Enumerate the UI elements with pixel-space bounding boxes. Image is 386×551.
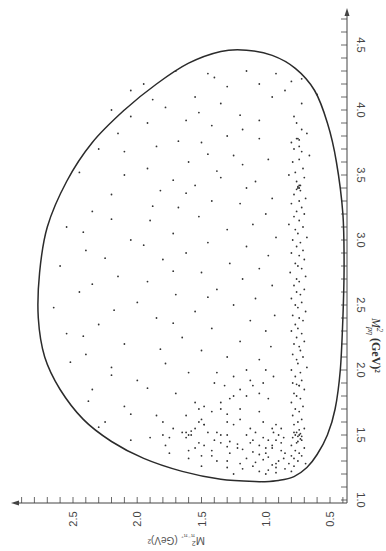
event-point (66, 226, 68, 228)
event-point (156, 317, 158, 319)
event-point (201, 455, 203, 457)
event-point (172, 233, 174, 235)
event-point (292, 161, 294, 163)
event-point (143, 244, 145, 246)
event-point (275, 463, 277, 465)
event-point (172, 428, 174, 430)
event-point (303, 259, 305, 261)
event-point (291, 142, 293, 144)
event-point (242, 448, 244, 450)
event-point (156, 146, 158, 148)
event-point (226, 421, 228, 423)
event-point (201, 142, 203, 144)
event-point (111, 367, 113, 369)
event-point (124, 343, 126, 345)
pη-axis-title-unit: (GeV)² (369, 338, 383, 373)
event-point (165, 363, 167, 365)
event-point (162, 259, 164, 261)
event-point (297, 233, 299, 235)
event-point (267, 469, 269, 471)
event-point (297, 435, 299, 437)
event-point (291, 369, 293, 371)
event-point (91, 211, 93, 213)
event-point (301, 268, 303, 270)
event-point (303, 341, 305, 343)
event-point (275, 439, 277, 441)
event-point (273, 432, 275, 434)
event-point (298, 281, 300, 283)
event-point (258, 471, 260, 473)
event-point (258, 138, 260, 140)
event-point (301, 103, 303, 105)
event-point (291, 298, 293, 300)
event-point (152, 99, 154, 101)
pη-tick-label: 1.5 (355, 427, 367, 442)
event-point (297, 363, 299, 365)
event-point (301, 78, 303, 80)
event-point (185, 415, 187, 417)
event-point (293, 116, 295, 118)
event-point (296, 138, 298, 140)
event-point (188, 434, 190, 436)
event-point (185, 252, 187, 254)
event-point (98, 148, 100, 150)
event-point (246, 70, 248, 72)
event-point (143, 83, 145, 85)
event-point (293, 216, 295, 218)
event-point (301, 129, 303, 131)
event-point (255, 461, 257, 463)
event-point (242, 164, 244, 166)
event-point (229, 441, 231, 443)
event-point (265, 369, 267, 371)
event-point (220, 434, 222, 436)
ππ-axis-title-sup: 2 (192, 540, 196, 547)
event-point (53, 307, 55, 309)
event-point (226, 434, 228, 436)
event-point (293, 458, 295, 460)
event-point (188, 372, 190, 374)
event-point (233, 424, 235, 426)
event-point (98, 324, 100, 326)
event-point (149, 220, 151, 222)
event-point (130, 413, 132, 415)
event-point (292, 354, 294, 356)
event-point (273, 376, 275, 378)
event-point (220, 103, 222, 105)
event-point (298, 200, 300, 202)
event-point (233, 155, 235, 157)
event-point (136, 380, 138, 382)
event-point (216, 289, 218, 291)
event-point (258, 454, 260, 456)
event-point (298, 346, 300, 348)
event-point (296, 122, 298, 124)
event-point (111, 194, 113, 196)
event-point (267, 398, 269, 400)
event-point (226, 446, 228, 448)
ππ-tick-label: 0.5 (324, 511, 336, 526)
event-point (79, 172, 81, 174)
pη-axis-arrow-icon (345, 8, 350, 16)
event-point (258, 268, 260, 270)
event-point (298, 139, 300, 141)
event-point (294, 304, 296, 306)
event-point (297, 328, 299, 330)
event-point (292, 437, 294, 439)
event-point (239, 114, 241, 116)
event-point (211, 125, 213, 127)
event-point (152, 205, 154, 207)
event-point (303, 447, 305, 449)
event-point (59, 265, 61, 267)
event-point (293, 194, 295, 196)
event-point (216, 170, 218, 172)
event-point (214, 382, 216, 384)
event-point (203, 445, 205, 447)
event-point (291, 471, 293, 473)
event-point (298, 385, 300, 387)
event-point (185, 437, 187, 439)
event-point (91, 389, 93, 391)
event-point (288, 463, 290, 465)
event-point (211, 411, 213, 413)
event-point (301, 380, 303, 382)
event-point (302, 250, 304, 252)
event-point (88, 400, 90, 402)
